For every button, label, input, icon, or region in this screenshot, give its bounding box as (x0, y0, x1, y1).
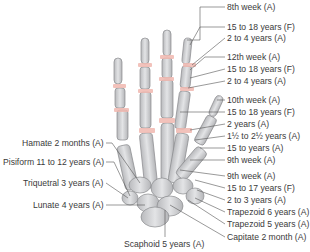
label-metacarpal-fusion: 15 to years (A) (227, 143, 283, 153)
label-distal-epiphysis-fusion: 15 to 18 years (F) (227, 22, 295, 32)
label-hamate: Hamate 2 months (A) (22, 138, 104, 148)
label-middle-epiphysis-fusion: 15 to 18 years (F) (227, 64, 295, 74)
label-thumb-epiphysis: 2 to 3 years (A) (227, 195, 286, 205)
label-metacarpal-shaft: 9th week (A) (227, 155, 275, 165)
label-proximal-epiphysis-appear: 2 years (A) (227, 119, 269, 129)
label-metacarpal-head: 1½ to 2½ years (A) (227, 131, 300, 141)
label-proximal-epiphysis-fusion: 15 to 18 years (F) (227, 107, 295, 117)
label-trapezoid-6: Trapezoid 6 years (A) (227, 207, 309, 217)
label-proximal-phalanx: 10th week (A) (227, 95, 280, 105)
label-thumb-fusion: 15 to 17 years (F) (227, 183, 295, 193)
label-distal-phalanx-middle: 8th week (A) (227, 2, 275, 12)
label-capitate: Capitate 2 month (A) (227, 232, 306, 242)
label-distal-epiphysis-appear: 2 to 4 years (A) (227, 33, 286, 43)
label-pisiform: Pisiform 11 to 12 years (A) (3, 157, 104, 167)
label-triquetral: Triquetral 3 years (A) (23, 178, 103, 188)
label-trapezoid-5: Trapezoid 5 years (A) (227, 219, 309, 229)
label-lunate: Lunate 4 years (A) (33, 200, 104, 210)
label-middle-epiphysis-appear: 2 to 4 years (A) (227, 76, 286, 86)
label-thumb-metacarpal: 9th week (A) (227, 171, 275, 181)
label-scaphoid: Scaphoid 5 years (A) (124, 239, 204, 249)
label-middle-phalanx: 12th week (A) (227, 52, 280, 62)
